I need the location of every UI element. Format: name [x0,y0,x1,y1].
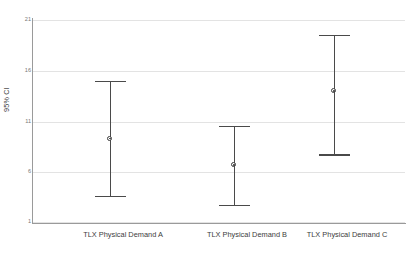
error-bar-upper-cap [319,35,350,36]
error-bar-tlx-physical-demand-a [81,20,141,222]
x-axis-line [32,223,406,224]
y-tick-label-1: 1 [5,219,31,225]
y-axis-tick-labels: 21 16 11 6 1 [0,0,31,257]
figure-caption [4,250,407,257]
plot-area [33,20,405,222]
error-bar-lower-cap [219,205,250,206]
y-tick-label-6: 6 [5,169,31,175]
error-bar-chart-figure: 95% CI 21 16 11 6 1 TLX Physical Demand … [0,0,411,257]
x-axis-tick-labels: TLX Physical Demand A TLX Physical Deman… [33,230,405,244]
x-tick-label-c: TLX Physical Demand C [285,230,409,239]
y-tick-label-11: 11 [5,119,31,125]
y-tick-label-21: 21 [5,17,31,23]
mean-marker [231,162,236,167]
error-bar-tlx-physical-demand-c [305,20,365,222]
gridline-1 [33,222,405,223]
mean-marker [107,136,112,141]
error-bar-stem [334,35,335,154]
error-bar-lower-cap [95,196,126,197]
x-tick-label-a: TLX Physical Demand A [61,230,185,239]
mean-marker [331,88,336,93]
error-bar-tlx-physical-demand-b [205,20,265,222]
error-bar-upper-cap [219,126,250,127]
y-tick-label-16: 16 [5,68,31,74]
error-bar-lower-cap [319,154,350,155]
error-bar-upper-cap [95,81,126,82]
